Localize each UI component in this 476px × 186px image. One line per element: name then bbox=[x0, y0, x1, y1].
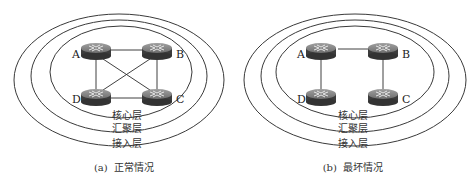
panel-worst: A B C D 核心层 汇聚层 接入层 (b) 最坏情况 bbox=[238, 0, 476, 186]
node-label-a: A bbox=[297, 49, 305, 60]
node-label-d: D bbox=[72, 94, 81, 105]
router-icon-c bbox=[368, 89, 398, 106]
layer-label-core: 核心层 bbox=[97, 110, 157, 121]
router-icon-b bbox=[142, 43, 172, 60]
router-icon-c bbox=[142, 89, 172, 106]
caption-normal: (a) 正常情况 bbox=[5, 159, 243, 174]
layer-label-core: 核心层 bbox=[323, 110, 383, 121]
router-icon-b bbox=[368, 43, 398, 60]
router-icon-d bbox=[306, 89, 336, 106]
node-label-b: B bbox=[176, 49, 184, 60]
layer-label-access: 接入层 bbox=[323, 138, 383, 149]
node-label-c: C bbox=[176, 94, 184, 105]
router-icon-a bbox=[81, 43, 111, 60]
node-label-a: A bbox=[72, 49, 80, 60]
layer-label-aggregation: 汇聚层 bbox=[97, 123, 157, 134]
caption-worst: (b) 最坏情况 bbox=[234, 159, 472, 174]
layer-label-aggregation: 汇聚层 bbox=[323, 123, 383, 134]
layer-label-access: 接入层 bbox=[97, 138, 157, 149]
node-label-d: D bbox=[297, 94, 306, 105]
node-label-c: C bbox=[402, 94, 410, 105]
node-label-b: B bbox=[402, 49, 410, 60]
router-icon-d bbox=[81, 89, 111, 106]
router-icon-a bbox=[306, 43, 336, 60]
panel-normal: A B C D 核心层 汇聚层 接入层 (a) 正常情况 bbox=[0, 0, 238, 186]
